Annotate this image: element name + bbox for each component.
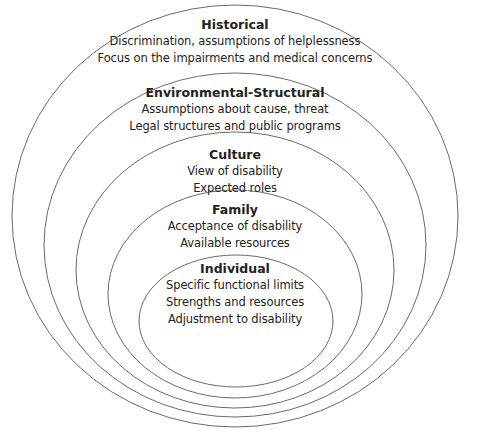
level-line: Specific functional limits [0,277,470,294]
level-title: Family [0,201,470,218]
level-line: Legal structures and public programs [0,118,470,135]
level-line: Available resources [0,235,470,252]
level-line: Discrimination, assumptions of helplessn… [0,33,470,50]
level-title: Historical [0,16,470,33]
level-title: Environmental-Structural [0,84,470,101]
level-title: Individual [0,260,470,277]
level-line: Expected roles [0,180,470,197]
level-environmental-structural: Environmental-Structural Assumptions abo… [0,84,470,135]
level-line: Adjustment to disability [0,311,470,328]
level-line: Assumptions about cause, threat [0,101,470,118]
level-individual: Individual Specific functional limits St… [0,260,470,328]
level-line: Focus on the impairments and medical con… [0,50,470,67]
level-line: Strengths and resources [0,294,470,311]
nested-ellipse-diagram: Historical Discrimination, assumptions o… [0,0,489,442]
level-title: Culture [0,146,470,163]
level-family: Family Acceptance of disability Availabl… [0,201,470,252]
level-line: View of disability [0,163,470,180]
level-historical: Historical Discrimination, assumptions o… [0,16,470,67]
level-line: Acceptance of disability [0,218,470,235]
level-culture: Culture View of disability Expected role… [0,146,470,197]
